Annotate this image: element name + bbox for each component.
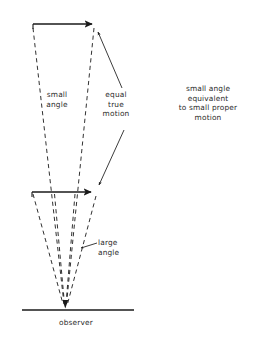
observer-label: observer: [40, 318, 112, 328]
near-sightline-1: [33, 194, 63, 304]
diagram-canvas: [0, 0, 256, 338]
far-sightline-right: [67, 28, 95, 304]
far-sightline-left: [33, 28, 64, 304]
equal-true-motion-label: equal true motion: [93, 90, 139, 119]
proper-motion-diagram: small angle equal true motion large angl…: [0, 0, 256, 338]
near-sightline-3: [66, 194, 75, 304]
near-sightline-2: [55, 194, 65, 304]
large-angle-label: large angle: [98, 238, 140, 257]
equal-true-motion-leader-upper: [98, 32, 122, 88]
equal-true-motion-leader-lower: [99, 130, 124, 185]
side-note-label: small angle equivalent to small proper m…: [163, 84, 253, 122]
observer-convergence-arrowhead: [62, 300, 68, 309]
small-angle-label: small angle: [34, 90, 80, 109]
